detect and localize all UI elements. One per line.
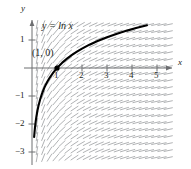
y-tick-label-neg2: −2	[15, 119, 25, 128]
y-axis-label: y	[21, 4, 25, 13]
slope-field-dash	[53, 91, 59, 98]
slope-field-dash	[47, 147, 52, 155]
slope-field-dash	[53, 35, 59, 42]
x-tick-label-3: 3	[104, 71, 109, 80]
slope-field-dash	[59, 77, 66, 83]
slope-field-dash	[53, 140, 59, 147]
slope-field-dash	[53, 112, 59, 119]
slope-field-dash	[59, 49, 66, 55]
slope-field-dash	[53, 147, 59, 154]
y-axis-arrowhead	[30, 20, 35, 26]
slope-field-dash	[47, 119, 52, 127]
slope-field-dash	[47, 35, 52, 43]
slope-field-dash	[47, 154, 52, 162]
slope-field-dashes	[36, 20, 173, 162]
x-axis-label: x	[178, 58, 182, 67]
slope-field-dash	[59, 126, 66, 132]
equation-label: y = ln x	[42, 21, 73, 31]
slope-field-dash	[59, 147, 66, 153]
slope-field-dash	[59, 84, 66, 90]
x-tick-label-2: 2	[79, 71, 84, 80]
slope-field-dash	[47, 133, 52, 141]
x-tick-label-1: 1	[54, 71, 59, 80]
slope-field-dash	[59, 119, 66, 125]
slope-field-dash	[47, 126, 52, 134]
plot-canvas	[0, 0, 191, 169]
slope-field-dash	[53, 105, 59, 112]
slope-field-dash	[47, 84, 52, 92]
slope-field-dash	[47, 98, 52, 106]
slope-field-figure: y x y = ln x (1, 0) 1 2 3 4 5 1 −1 −2 −3	[0, 0, 191, 169]
slope-field-dash	[59, 140, 66, 146]
slope-field-dash	[59, 154, 66, 160]
slope-field-dash	[47, 63, 52, 71]
slope-field-dash	[53, 126, 59, 133]
slope-field-dash	[47, 140, 52, 148]
slope-field-dash	[59, 105, 66, 111]
slope-field-dash	[53, 98, 59, 105]
slope-field-dash	[59, 42, 66, 48]
x-tick-label-4: 4	[129, 71, 134, 80]
slope-field-dash	[47, 112, 52, 120]
point-coordinate-label: (1, 0)	[32, 48, 54, 58]
y-tick-label-neg1: −1	[15, 91, 25, 100]
y-tick-label-1: 1	[20, 35, 25, 44]
slope-field-dash	[53, 133, 59, 140]
slope-field-dash	[59, 70, 66, 76]
slope-field-dash	[59, 91, 66, 97]
slope-field-dash	[47, 105, 52, 113]
slope-field-dash	[59, 133, 66, 139]
slope-field-dash	[53, 119, 59, 126]
slope-field-dash	[47, 91, 52, 99]
slope-field-dash	[53, 84, 59, 91]
slope-field-dash	[59, 35, 66, 41]
x-tick-label-5: 5	[154, 71, 159, 80]
slope-field-dash	[53, 154, 59, 161]
y-tick-label-neg3: −3	[15, 147, 25, 156]
slope-field-dash	[59, 112, 66, 118]
slope-field-dash	[59, 98, 66, 104]
